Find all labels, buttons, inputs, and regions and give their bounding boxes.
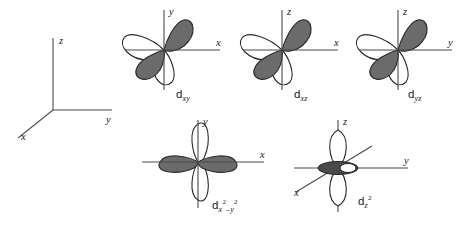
axis-label-y: y <box>105 114 111 125</box>
orbital-label-dz2: dz2 <box>358 194 372 210</box>
orbital-dyz: z y dyz <box>352 4 464 96</box>
orbital-label-dxz: dxz <box>294 88 308 103</box>
orbital-label-dyz: dyz <box>408 88 422 103</box>
axis-label-horizontal: y <box>447 37 453 48</box>
lobe-left <box>159 156 198 172</box>
torus-highlight <box>340 164 356 173</box>
orbital-label-base: d <box>294 88 301 100</box>
orbital-label-sup-y: 2 <box>234 198 238 206</box>
orbital-dx2y2: y x dx2–y2 <box>142 112 272 216</box>
orbital-label-sub: yz <box>415 94 422 103</box>
orbital-label-sub: xz <box>301 94 308 103</box>
coordinate-axes: z y x <box>8 22 118 142</box>
orbital-label-sub-z: z <box>365 201 368 210</box>
axis-label-horizontal: x <box>215 37 221 48</box>
axis-label-horizontal: x <box>259 149 265 160</box>
axis-label-diagonal: x <box>293 187 299 198</box>
orbital-label-sup-z: 2 <box>368 194 372 202</box>
axis-label-vertical: y <box>202 116 208 127</box>
orbital-dz2: z y x dz2 <box>286 112 426 216</box>
axis-label-x: x <box>20 131 26 142</box>
dxz-lobes <box>240 20 311 85</box>
lobe-up <box>192 123 208 162</box>
axis-label-z: z <box>58 35 63 46</box>
dxy-lobes <box>122 20 193 85</box>
orbital-label-base: d <box>358 195 365 207</box>
orbital-label-sub: xy <box>183 94 191 103</box>
orbital-dxy: y x dxy <box>118 4 230 96</box>
orbital-label-sub-y: y <box>230 205 234 214</box>
lobe-upper-right <box>398 20 427 51</box>
dyz-lobes <box>356 20 427 85</box>
orbital-label-dx2y2: dx2–y2 <box>212 198 238 214</box>
dz2-lobes <box>318 130 358 206</box>
orbital-label-base: d <box>176 88 183 100</box>
d-orbital-diagram: z y x y x dxy <box>0 0 464 226</box>
axis-label-horizontal: x <box>333 37 339 48</box>
orbital-label-base: d <box>212 199 219 211</box>
axis-label-vertical: z <box>286 6 291 17</box>
orbital-label-dxy: dxy <box>176 88 190 103</box>
axis-label-vertical: y <box>168 6 174 17</box>
orbital-dxz: z x dxz <box>236 4 348 96</box>
axis-label-vertical: z <box>342 116 347 127</box>
lobe-upper-right <box>282 20 311 51</box>
axis-label-horizontal: y <box>403 155 409 166</box>
axis-label-vertical: z <box>402 6 407 17</box>
orbital-label-base: d <box>408 88 415 100</box>
lobe-upper-right <box>164 20 193 51</box>
orbital-label-sub-x: x <box>219 205 223 214</box>
